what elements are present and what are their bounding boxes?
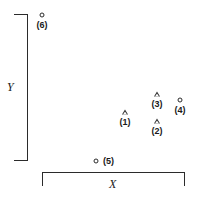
y-axis-top-cap xyxy=(14,14,28,15)
data-point-label: (3) xyxy=(152,100,163,109)
data-point-label: (5) xyxy=(103,157,114,166)
data-point-label: (6) xyxy=(37,21,48,30)
circle-marker-icon xyxy=(40,13,45,18)
data-point-label: (1) xyxy=(120,118,131,127)
scatter-figure: Y X (1)(2)(3)(4)(5)(6) xyxy=(0,0,200,197)
x-axis-label: X xyxy=(109,178,116,190)
circle-marker-icon xyxy=(178,98,183,103)
x-axis-left-cap xyxy=(42,172,43,186)
triangle-marker-icon xyxy=(154,92,160,97)
x-axis-spine xyxy=(42,172,185,173)
triangle-marker-icon xyxy=(154,119,160,124)
y-axis-bottom-cap xyxy=(14,160,28,161)
y-axis-spine xyxy=(27,14,28,161)
data-point-label: (2) xyxy=(152,127,163,136)
x-axis-right-cap xyxy=(184,172,185,186)
data-point-label: (4) xyxy=(175,106,186,115)
triangle-marker-icon xyxy=(122,110,128,115)
y-axis-label: Y xyxy=(7,81,14,93)
circle-marker-icon xyxy=(94,159,99,164)
